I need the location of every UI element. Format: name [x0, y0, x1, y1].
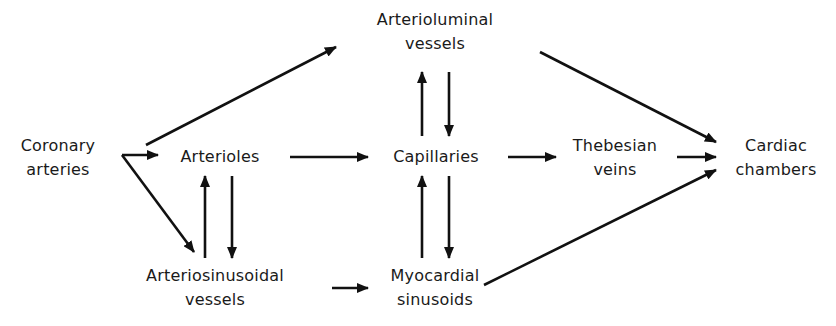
node-label: Myocardial: [372, 264, 498, 288]
node-label: Cardiac: [722, 134, 830, 158]
node-label: veins: [560, 158, 670, 182]
node-myocardial-sinusoids: Myocardial sinusoids: [372, 264, 498, 312]
node-label: Arterioles: [165, 145, 275, 169]
arrow-myocardial-to-cardiac: [484, 170, 716, 285]
node-thebesian-veins: Thebesian veins: [560, 134, 670, 182]
node-coronary-arteries: Coronary arteries: [8, 134, 108, 182]
node-label: Thebesian: [560, 134, 670, 158]
node-label: arteries: [8, 158, 108, 182]
node-label: Arterioluminal: [355, 8, 515, 32]
node-label: sinusoids: [372, 288, 498, 312]
node-label: chambers: [722, 158, 830, 182]
node-label: Coronary: [8, 134, 108, 158]
arrow-coronary-to-arterioluminal: [146, 47, 336, 145]
node-label: vessels: [130, 288, 300, 312]
node-arterioles: Arterioles: [165, 145, 275, 169]
node-label: Capillaries: [375, 145, 497, 169]
node-cardiac-chambers: Cardiac chambers: [722, 134, 830, 182]
arrow-coronary-to-arteriosinusoidal: [122, 155, 194, 252]
node-arteriosinusoidal-vessels: Arteriosinusoidal vessels: [130, 264, 300, 312]
node-arterioluminal-vessels: Arterioluminal vessels: [355, 8, 515, 56]
node-label: vessels: [355, 32, 515, 56]
arrow-arterioluminal-to-cardiac: [540, 52, 716, 142]
node-label: Arteriosinusoidal: [130, 264, 300, 288]
node-capillaries: Capillaries: [375, 145, 497, 169]
